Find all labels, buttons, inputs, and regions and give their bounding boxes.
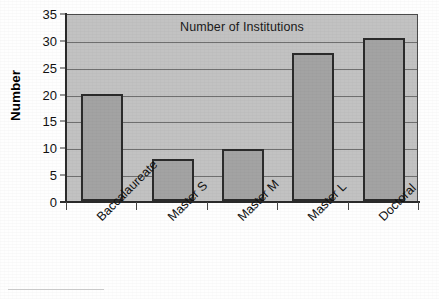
bar[interactable]	[292, 53, 334, 201]
x-axis-tick-mark	[136, 202, 137, 210]
bar-slot	[278, 15, 348, 201]
bar-slot	[67, 15, 137, 201]
y-axis-tick-label: 30	[29, 33, 57, 48]
y-axis-tick-label: 20	[29, 87, 57, 102]
y-axis-tick-mark	[60, 121, 66, 122]
x-axis-tick-mark	[207, 202, 208, 210]
y-axis-tick-mark	[60, 14, 66, 15]
y-axis-tick-label: 10	[29, 141, 57, 156]
x-axis-tick-mark	[418, 202, 419, 210]
plot-area: Number of Institutions	[66, 14, 418, 202]
page-edge-artifact	[8, 289, 104, 290]
bar-slot	[349, 15, 419, 201]
y-axis-title: Number	[8, 53, 23, 139]
y-axis-tick-label: 25	[29, 60, 57, 75]
y-axis-tick-mark	[60, 148, 66, 149]
bar[interactable]	[81, 94, 123, 201]
y-axis-tick-label: 35	[29, 7, 57, 22]
x-axis-tick-mark	[66, 202, 67, 210]
x-axis-tick-mark	[348, 202, 349, 210]
x-axis-tick-mark	[277, 202, 278, 210]
bar-series	[67, 15, 417, 201]
y-axis-tick-label: 15	[29, 114, 57, 129]
bar[interactable]	[363, 38, 405, 201]
bar-slot	[208, 15, 278, 201]
y-axis-tick-label: 5	[29, 168, 57, 183]
y-axis-tick-mark	[60, 40, 66, 41]
y-axis-tick-mark	[60, 175, 66, 176]
chart-figure: Number of Institutions 05101520253035 Nu…	[0, 0, 439, 299]
y-axis-tick-mark	[60, 67, 66, 68]
y-axis-tick-label: 0	[29, 195, 57, 210]
y-axis-tick-mark	[60, 94, 66, 95]
